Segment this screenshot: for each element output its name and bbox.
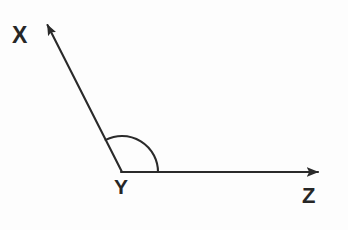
point-label-z: Z	[302, 185, 315, 207]
point-label-x: X	[12, 24, 27, 47]
ray-yx	[48, 25, 123, 172]
point-label-y: Y	[114, 176, 128, 197]
diagram-svg	[0, 0, 348, 230]
angle-diagram-canvas: X Y Z	[0, 0, 348, 230]
